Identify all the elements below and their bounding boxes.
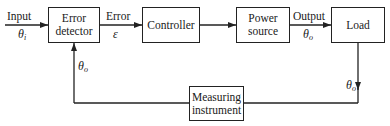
feedback-right-symbol: θo xyxy=(346,79,356,95)
power-source-line2: source xyxy=(248,25,278,38)
feedback-left-sub: o xyxy=(84,65,88,74)
power-source-block: Power source xyxy=(236,7,290,43)
input-symbol: θi xyxy=(18,28,26,44)
error-detector-block: Error detector xyxy=(48,7,100,43)
controller-block: Controller xyxy=(142,7,200,43)
error-label: Error xyxy=(106,10,130,22)
input-sub: i xyxy=(24,33,26,42)
controller-label: Controller xyxy=(147,19,194,32)
feedback-left-symbol: θo xyxy=(78,60,88,76)
input-label: Input xyxy=(7,10,31,22)
load-block: Load xyxy=(331,7,385,43)
measuring-instrument-line2: instrument xyxy=(192,104,241,117)
error-symbol: ε xyxy=(113,28,118,40)
measuring-instrument-line1: Measuring xyxy=(192,91,241,104)
error-detector-line2: detector xyxy=(55,25,92,38)
error-detector-line1: Error xyxy=(62,12,86,25)
output-label: Output xyxy=(293,10,325,22)
power-source-line1: Power xyxy=(248,12,277,25)
output-sub: o xyxy=(309,33,313,42)
load-label: Load xyxy=(346,19,370,32)
feedback-right-sub: o xyxy=(352,84,356,93)
output-symbol: θo xyxy=(303,28,313,44)
measuring-instrument-block: Measuring instrument xyxy=(189,86,244,121)
